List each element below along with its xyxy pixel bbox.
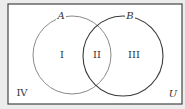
- set-b-label: B: [125, 10, 133, 21]
- venn-diagram: A B I II III IV U: [0, 0, 185, 109]
- set-a-label: A: [56, 10, 64, 21]
- region-iii-label: III: [128, 49, 140, 60]
- region-i-label: I: [60, 49, 64, 60]
- universe-label: U: [169, 88, 178, 99]
- region-ii-label: II: [93, 49, 101, 60]
- region-iv-label: IV: [16, 87, 28, 98]
